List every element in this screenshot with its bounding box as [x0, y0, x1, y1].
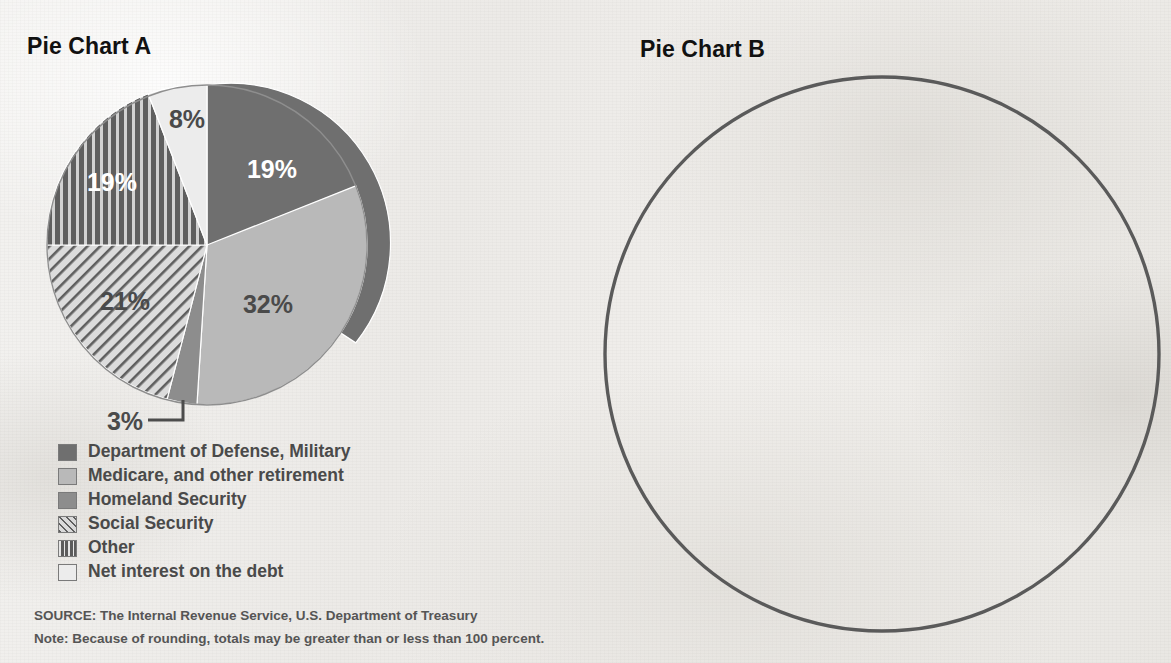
- rounding-note: Note: Because of rounding, totals may be…: [34, 627, 654, 650]
- legend-swatch-icon-medicare: [58, 468, 77, 485]
- legend-swatch-icon-homeland: [58, 492, 77, 509]
- legend-item-interest[interactable]: Net interest on the debt: [58, 560, 488, 584]
- legend-item-social[interactable]: Social Security: [58, 512, 488, 536]
- pie-chart-a-title: Pie Chart A: [27, 33, 151, 60]
- legend: Department of Defense, Military Medicare…: [58, 440, 488, 584]
- pie-a-label-social: 21%: [100, 287, 150, 315]
- pie-chart-b-svg: [590, 55, 1170, 655]
- legend-swatch-icon-defense: [58, 444, 77, 461]
- pie-chart-b: [590, 55, 1170, 655]
- legend-label-defense: Department of Defense, Military: [88, 443, 351, 461]
- legend-label-medicare: Medicare, and other retirement: [88, 467, 344, 485]
- footnotes: SOURCE: The Internal Revenue Service, U.…: [34, 604, 654, 650]
- pie-a-label-other: 19%: [87, 168, 137, 196]
- legend-label-social: Social Security: [88, 515, 213, 533]
- legend-label-interest: Net interest on the debt: [88, 563, 283, 581]
- legend-item-defense[interactable]: Department of Defense, Military: [58, 440, 488, 464]
- pie-chart-a: 19% 32% 3% 21% 19% 8%: [20, 70, 420, 430]
- pie-b-empty-circle-outline: [605, 77, 1159, 631]
- legend-label-other: Other: [88, 539, 135, 557]
- pie-a-label-medicare: 32%: [243, 290, 293, 318]
- pie-a-label-defense: 19%: [247, 155, 297, 183]
- legend-item-other[interactable]: Other: [58, 536, 488, 560]
- legend-item-medicare[interactable]: Medicare, and other retirement: [58, 464, 488, 488]
- legend-item-homeland[interactable]: Homeland Security: [58, 488, 488, 512]
- pie-a-label-interest: 8%: [169, 105, 205, 133]
- pie-a-label-homeland: 3%: [107, 407, 143, 430]
- legend-label-homeland: Homeland Security: [88, 491, 247, 509]
- legend-swatch-icon-social: [58, 516, 77, 533]
- legend-swatch-icon-other: [58, 540, 77, 557]
- legend-swatch-icon-interest: [58, 564, 77, 581]
- source-note: SOURCE: The Internal Revenue Service, U.…: [34, 604, 654, 627]
- pie-chart-a-svg: 19% 32% 3% 21% 19% 8%: [20, 70, 420, 430]
